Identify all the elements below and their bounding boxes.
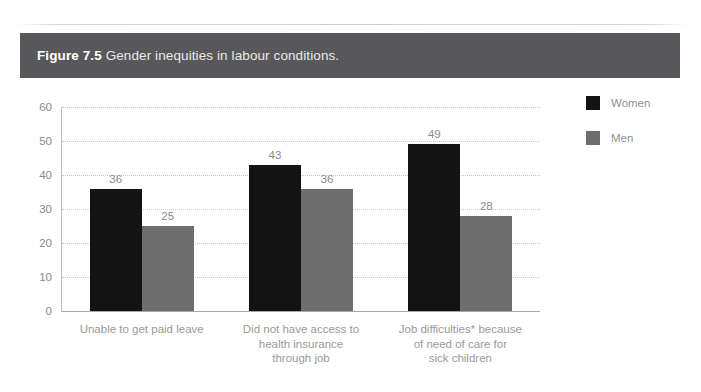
bar-value-label: 36: [84, 173, 148, 185]
bar-men: [460, 216, 512, 311]
x-axis-category-label: Did not have access tohealth insuranceth…: [221, 322, 380, 366]
legend-swatch-men-icon: [586, 131, 600, 145]
x-axis-category-label: Unable to get paid leave: [62, 322, 221, 337]
bar-men: [301, 189, 353, 311]
bar-value-label: 43: [243, 149, 307, 161]
bar-value-label: 49: [402, 128, 466, 140]
gridline: [62, 107, 540, 108]
y-axis-tick-label: 60: [6, 101, 52, 113]
bar-men: [142, 226, 194, 311]
y-axis-tick-label: 50: [6, 135, 52, 147]
y-axis-tick-label: 30: [6, 203, 52, 215]
chart-legend: Women Men: [586, 96, 650, 166]
bar-chart: 0102030405060 362543364928 Unable to get…: [0, 0, 701, 392]
legend-label-men: Men: [611, 132, 633, 144]
bar-value-label: 25: [136, 210, 200, 222]
bar-value-label: 28: [454, 200, 518, 212]
y-axis-tick-label: 0: [6, 305, 52, 317]
x-axis-category-label: Job difficulties* becauseof need of care…: [381, 322, 540, 366]
bar-women: [249, 165, 301, 311]
bar-value-label: 36: [295, 173, 359, 185]
legend-item-women: Women: [586, 96, 650, 110]
y-axis-tick-label: 20: [6, 237, 52, 249]
bar-women: [90, 189, 142, 311]
y-axis-tick-label: 10: [6, 271, 52, 283]
legend-swatch-women-icon: [586, 96, 600, 110]
legend-label-women: Women: [611, 97, 650, 109]
gridline: [62, 141, 540, 142]
x-axis-baseline: [62, 311, 540, 312]
bar-women: [408, 144, 460, 311]
y-axis-tick-label: 40: [6, 169, 52, 181]
legend-item-men: Men: [586, 131, 650, 145]
